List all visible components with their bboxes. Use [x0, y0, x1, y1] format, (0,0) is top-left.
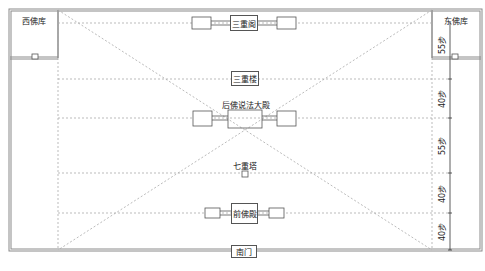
dimension-label: 40步: [438, 217, 448, 247]
dimension-label: 40步: [438, 84, 448, 114]
seven-story-pagoda-label: 七重塔: [231, 160, 259, 171]
east-store-gate: [452, 54, 458, 59]
dimension-label: 40步: [438, 179, 448, 209]
west-store-gate: [32, 54, 38, 59]
south-gate: 南门: [231, 245, 257, 258]
dimension-label: 55步: [438, 30, 448, 60]
dimension-line: [448, 22, 452, 250]
rear-hall-wings: [193, 110, 296, 128]
site-plan-drawing: [0, 0, 485, 271]
east-store-label: 东佛库: [444, 17, 468, 27]
three-story-tower: 三重楼: [231, 71, 259, 86]
front-buddha-hall: 前佛殿: [231, 203, 258, 224]
three-story-pavilion: 三重阁: [230, 15, 258, 31]
west-store-label: 西佛库: [22, 17, 46, 27]
rear-dharma-hall-label: 后佛说法大殿: [222, 99, 268, 110]
pagoda-marker: [242, 171, 248, 177]
dimension-label: 55步: [438, 131, 448, 161]
